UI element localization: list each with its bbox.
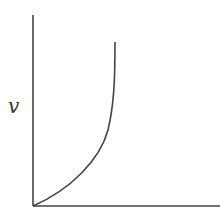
- chart: [0, 0, 220, 218]
- data-curve: [33, 42, 115, 206]
- y-axis-label: v: [8, 96, 19, 116]
